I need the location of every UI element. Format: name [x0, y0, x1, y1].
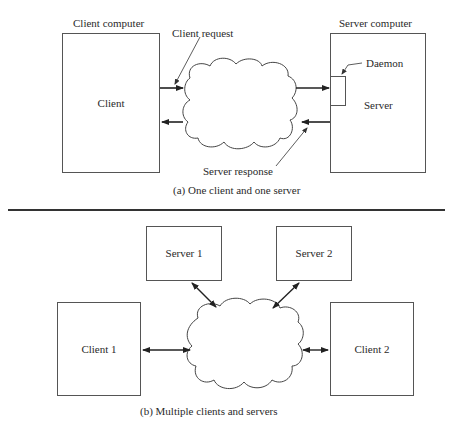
daemon-leader [342, 63, 362, 74]
server1-link [192, 283, 216, 307]
internet-cloud-a [183, 58, 297, 149]
internet-cloud-b [187, 298, 303, 388]
server2-link [273, 283, 299, 308]
connections-layer [0, 0, 449, 425]
